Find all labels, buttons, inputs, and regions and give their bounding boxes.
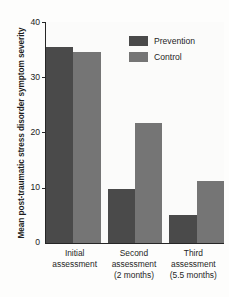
x-label-third-line1: Third [164, 248, 223, 259]
y-axis-tick-labels: 40 30 20 10 0 [21, 0, 40, 297]
x-label-second-line2: assessment [104, 259, 163, 270]
legend-item-control: Control [129, 50, 195, 63]
x-label-second-assessment: Second assessment (2 months) [104, 248, 163, 281]
y-tick-label-20: 20 [22, 128, 40, 137]
legend-swatch-control [129, 52, 148, 62]
x-label-third-line2: assessment [164, 259, 223, 270]
legend-label-control: Control [154, 52, 182, 62]
bar-control-second [135, 123, 162, 243]
x-label-second-line3: (2 months) [104, 270, 163, 281]
legend-item-prevention: Prevention [129, 34, 195, 47]
x-label-third-assessment: Third assessment (5.5 months) [164, 248, 223, 281]
legend-swatch-prevention [129, 36, 148, 46]
y-tick-label-40: 40 [22, 18, 40, 27]
x-axis-tick-labels: Initial assessment Second assessment (2 … [45, 248, 223, 281]
bar-prevention-initial [46, 47, 73, 243]
y-tick-label-10: 10 [22, 183, 40, 192]
bar-prevention-second [108, 189, 135, 243]
x-label-initial-assessment: Initial assessment [45, 248, 104, 281]
bar-chart-figure: Mean post-traumatic stress disorder symp… [0, 0, 229, 297]
y-tick-label-30: 30 [22, 73, 40, 82]
bar-prevention-third [169, 215, 196, 243]
chart-legend: Prevention Control [129, 34, 195, 66]
x-label-initial-line2: assessment [45, 259, 104, 270]
bar-control-third [197, 181, 224, 243]
x-label-initial-line1: Initial [45, 248, 104, 259]
legend-label-prevention: Prevention [154, 36, 195, 46]
x-label-third-line3: (5.5 months) [164, 270, 223, 281]
plot-area: Prevention Control [45, 22, 224, 244]
y-tick-label-0: 0 [22, 238, 40, 247]
bar-group-initial-assessment [46, 22, 101, 243]
x-label-second-line1: Second [104, 248, 163, 259]
bar-control-initial [73, 52, 100, 243]
